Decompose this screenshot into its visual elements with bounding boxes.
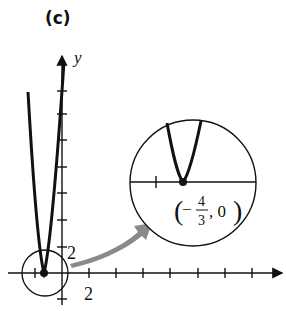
panel-label: (c) xyxy=(45,8,71,28)
inset-vertex-point xyxy=(179,178,187,186)
zoom-arrow-icon xyxy=(70,223,152,268)
svg-text:): ) xyxy=(233,195,242,226)
svg-text:3: 3 xyxy=(198,213,205,228)
svg-text:−: − xyxy=(182,200,192,219)
x-tick-label: 2 xyxy=(84,284,93,304)
svg-text:, 0: , 0 xyxy=(209,202,226,221)
y-axis-label: y xyxy=(72,48,82,67)
x-axis xyxy=(8,268,282,278)
figure-c: (c) 2 xyxy=(0,0,286,311)
vertex-point xyxy=(40,269,48,277)
svg-text:4: 4 xyxy=(198,194,205,209)
y-tick-label: 2 xyxy=(67,243,76,263)
zoom-inset xyxy=(130,120,256,246)
graph-canvas: 2 y 2 xyxy=(0,0,286,311)
